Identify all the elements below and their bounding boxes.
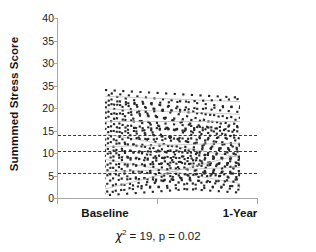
- y-tick-label: 0: [22, 192, 54, 204]
- x-tick-label: Baseline: [81, 207, 128, 219]
- x-tick-label: 1-Year: [223, 207, 258, 219]
- stress-score-chart: Summmed Stress Score 4035303520151050 Ba…: [0, 0, 316, 252]
- caption-statistic-text: = 19, p = 0.02: [126, 230, 200, 242]
- y-tick-label: 10: [22, 147, 54, 159]
- y-axis-tick-labels: 4035303520151050: [22, 0, 54, 252]
- x-tick-mark: [57, 199, 58, 204]
- subject-line: [105, 138, 240, 140]
- chart-caption: χ2 = 19, p = 0.02: [0, 228, 316, 243]
- y-tick-label: 20: [22, 102, 54, 114]
- subject-line: [105, 184, 240, 193]
- subject-trajectory-lines: [57, 18, 257, 199]
- y-tick-label: 40: [22, 12, 54, 24]
- x-tick-mark: [257, 199, 258, 204]
- y-tick-label: 35: [22, 35, 54, 47]
- subject-line: [105, 123, 240, 136]
- plot-area: Baseline1-Year: [57, 18, 257, 198]
- y-tick-label: 30: [22, 57, 54, 69]
- subject-line: [105, 113, 240, 125]
- y-tick-label: 15: [22, 125, 54, 137]
- x-tick-mark: [157, 199, 158, 204]
- subject-line: [105, 90, 240, 98]
- y-tick-label: 5: [22, 170, 54, 182]
- y-tick-label: 35: [22, 80, 54, 92]
